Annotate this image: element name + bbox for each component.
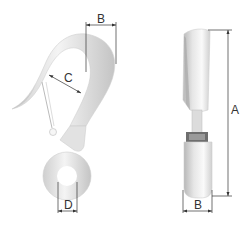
hook-front-view (12, 34, 115, 200)
dimension-label-b-front: B (97, 13, 105, 25)
dimension-label-c: C (64, 72, 73, 84)
diagram-canvas: B C D A B (0, 0, 248, 231)
hook-drawing (0, 0, 248, 231)
dimension-label-d: D (64, 199, 73, 211)
latch-pin (50, 129, 57, 136)
eye-hole (57, 166, 77, 186)
dimension-label-b-side: B (194, 199, 202, 211)
hook-side-view (183, 29, 212, 198)
dimension-label-a: A (231, 104, 239, 116)
side-lower-body (184, 142, 212, 198)
